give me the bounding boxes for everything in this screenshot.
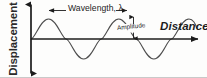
- x-axis-label-distance: Distance: [160, 21, 207, 33]
- wavelength-annotation-label: Wavelength, λ: [68, 4, 123, 13]
- wave-diagram: Displacement Distance Wavelength, λ Ampl…: [0, 0, 207, 78]
- y-axis-label-displacement: Displacement: [8, 2, 20, 76]
